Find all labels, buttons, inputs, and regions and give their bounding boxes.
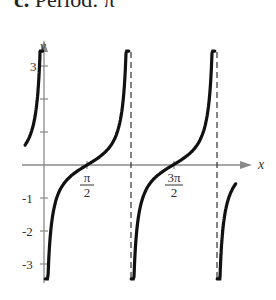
chart-plot: y x 3 -1 -2 -3 π 2 3π 2 xyxy=(0,0,276,300)
y-tick-label-neg2: -2 xyxy=(22,224,33,239)
curve-branch-right xyxy=(217,184,236,279)
x-axis-arrow-icon xyxy=(240,161,252,169)
x-tick-label-3pi-over-2-num: 3π xyxy=(167,170,181,185)
x-tick-label-pi-over-2-den: 2 xyxy=(84,185,91,200)
y-tick-label-neg3: -3 xyxy=(22,257,33,272)
y-tick-label-neg1: -1 xyxy=(22,191,33,206)
x-tick-label-3pi-over-2-den: 2 xyxy=(171,185,178,200)
x-axis-label: x xyxy=(257,157,265,172)
x-tick-label-pi-over-2-num: π xyxy=(84,170,91,185)
y-tick-label-3: 3 xyxy=(30,59,37,74)
